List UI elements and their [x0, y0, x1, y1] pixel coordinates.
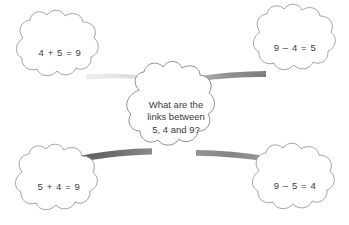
cloud-top-left[interactable]: [17, 10, 99, 75]
cloud-bottom-right[interactable]: [253, 143, 335, 208]
cloud-bottom-left[interactable]: [16, 144, 98, 209]
cloud-center[interactable]: [127, 61, 215, 145]
cloud-top-right[interactable]: [254, 4, 336, 69]
cloud-diagram-svg: [0, 0, 349, 225]
diagram-canvas: 4 + 5 = 9 9 – 4 = 5 5 + 4 = 9 9 – 5 = 4 …: [0, 0, 349, 225]
connector-bottom-left: [82, 148, 152, 161]
